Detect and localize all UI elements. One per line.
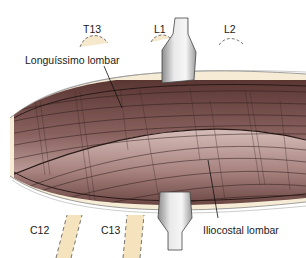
rib-c13 bbox=[123, 215, 144, 258]
rib-c12 bbox=[56, 215, 82, 258]
spinous-process-top bbox=[162, 18, 196, 83]
spinous-process-bottom bbox=[158, 192, 192, 250]
muscle-group bbox=[0, 80, 306, 215]
label-iliocostal: Iliocostal lombar bbox=[203, 225, 279, 236]
vertebra-l1-process bbox=[151, 35, 170, 42]
label-l1: L1 bbox=[154, 24, 166, 35]
anatomy-diagram: T13 L1 L2 Longuíssimo lombar Iliocostal … bbox=[0, 0, 306, 258]
label-c13: C13 bbox=[101, 225, 120, 236]
vertebra-l2-process bbox=[219, 39, 243, 46]
label-l2: L2 bbox=[224, 24, 236, 35]
vertebra-t13-process bbox=[80, 36, 108, 47]
diagram-art bbox=[0, 0, 306, 258]
label-t13: T13 bbox=[83, 24, 101, 35]
label-longissimus: Longuíssimo lombar bbox=[25, 55, 120, 66]
label-c12: C12 bbox=[30, 225, 49, 236]
